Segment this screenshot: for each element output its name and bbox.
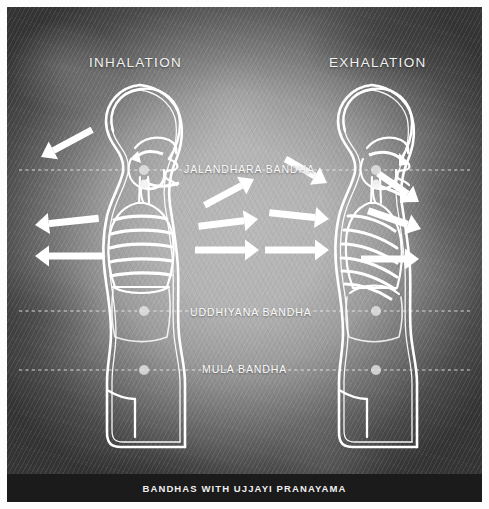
- inhalation-abdomen: [112, 289, 170, 342]
- artwork-canvas: INHALATION EXHALATION JALANDHARA BANDHA …: [7, 7, 482, 502]
- inhalation-arrow-1: [36, 121, 97, 166]
- caption-bar: BANDHAS WITH UJJAYI PRANAYAMA: [7, 474, 482, 502]
- inhalation-airway-arrowhead-upper: [130, 151, 141, 163]
- inhalation-body-outline-inner: [109, 90, 181, 442]
- label-mula-bandha: MULA BANDHA: [202, 363, 287, 375]
- inhalation-airway-arrow-upper: [136, 152, 163, 157]
- label-uddhiyana-bandha: UDDHIYANA BANDHA: [190, 306, 312, 318]
- exhalation-abdomen: [346, 297, 402, 342]
- marker-jalandhara-left: [139, 165, 149, 175]
- anatomy-illustration: [7, 7, 482, 502]
- caption-text: BANDHAS WITH UJJAYI PRANAYAMA: [143, 483, 347, 494]
- bandhas-pranayama-poster: INHALATION EXHALATION JALANDHARA BANDHA …: [0, 0, 489, 509]
- exhalation-airflow-hub: [372, 180, 381, 189]
- exhalation-arrow-2: [268, 202, 330, 229]
- inhalation-airflow-hub: [140, 180, 149, 189]
- exhalation-airway-arrow-upper: [369, 152, 401, 159]
- inhalation-pelvis: [107, 390, 135, 437]
- exhalation-nasal-palate: [367, 138, 408, 153]
- heading-inhalation: INHALATION: [89, 55, 182, 70]
- exhalation-pelvis: [339, 390, 367, 437]
- inhalation-arrow-3: [35, 246, 103, 267]
- marker-jalandhara-right: [371, 165, 381, 175]
- heading-exhalation: EXHALATION: [329, 55, 427, 70]
- inhalation-arrow-4: [200, 170, 259, 214]
- inhalation-arrow-2: [34, 208, 100, 236]
- figure-inhalation: [104, 85, 186, 447]
- inhalation-arrow-6: [195, 240, 259, 261]
- inhalation-ribcage: [110, 216, 172, 276]
- marker-mula-left: [139, 365, 149, 375]
- marker-mula-right: [371, 365, 381, 375]
- figure-exhalation: [336, 85, 418, 447]
- label-jalandhara-bandha: JALANDHARA BANDHA: [184, 163, 315, 175]
- exhalation-arrow-3: [265, 240, 329, 261]
- marker-uddhiyana-right: [371, 306, 381, 316]
- inhalation-arrow-5: [197, 209, 259, 237]
- marker-uddhiyana-left: [139, 306, 149, 316]
